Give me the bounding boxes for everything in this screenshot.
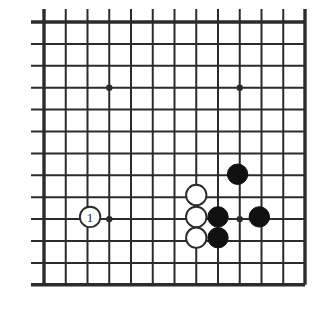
star-point-hoshi (106, 85, 112, 91)
white-stone-disc (186, 207, 206, 227)
star-point-hoshi (237, 85, 243, 91)
star-point-hoshi (106, 216, 112, 222)
black-stone-disc (227, 164, 247, 184)
black-stone (208, 228, 228, 248)
stone-move-number: 1 (87, 210, 94, 225)
black-stone (249, 207, 269, 227)
black-stone-disc (249, 207, 269, 227)
white-stone-move-1: 1 (80, 207, 100, 227)
white-stone (186, 228, 206, 248)
white-stone (186, 185, 206, 205)
board-background (0, 0, 324, 325)
black-stone-disc (208, 228, 228, 248)
white-stone (186, 207, 206, 227)
black-stone (208, 207, 228, 227)
go-board-canvas: 1 (0, 0, 324, 325)
go-board-diagram: 1 (0, 0, 324, 325)
black-stone (227, 164, 247, 184)
star-point-hoshi (237, 216, 243, 222)
white-stone-disc (186, 228, 206, 248)
white-stone-disc (186, 185, 206, 205)
black-stone-disc (208, 207, 228, 227)
